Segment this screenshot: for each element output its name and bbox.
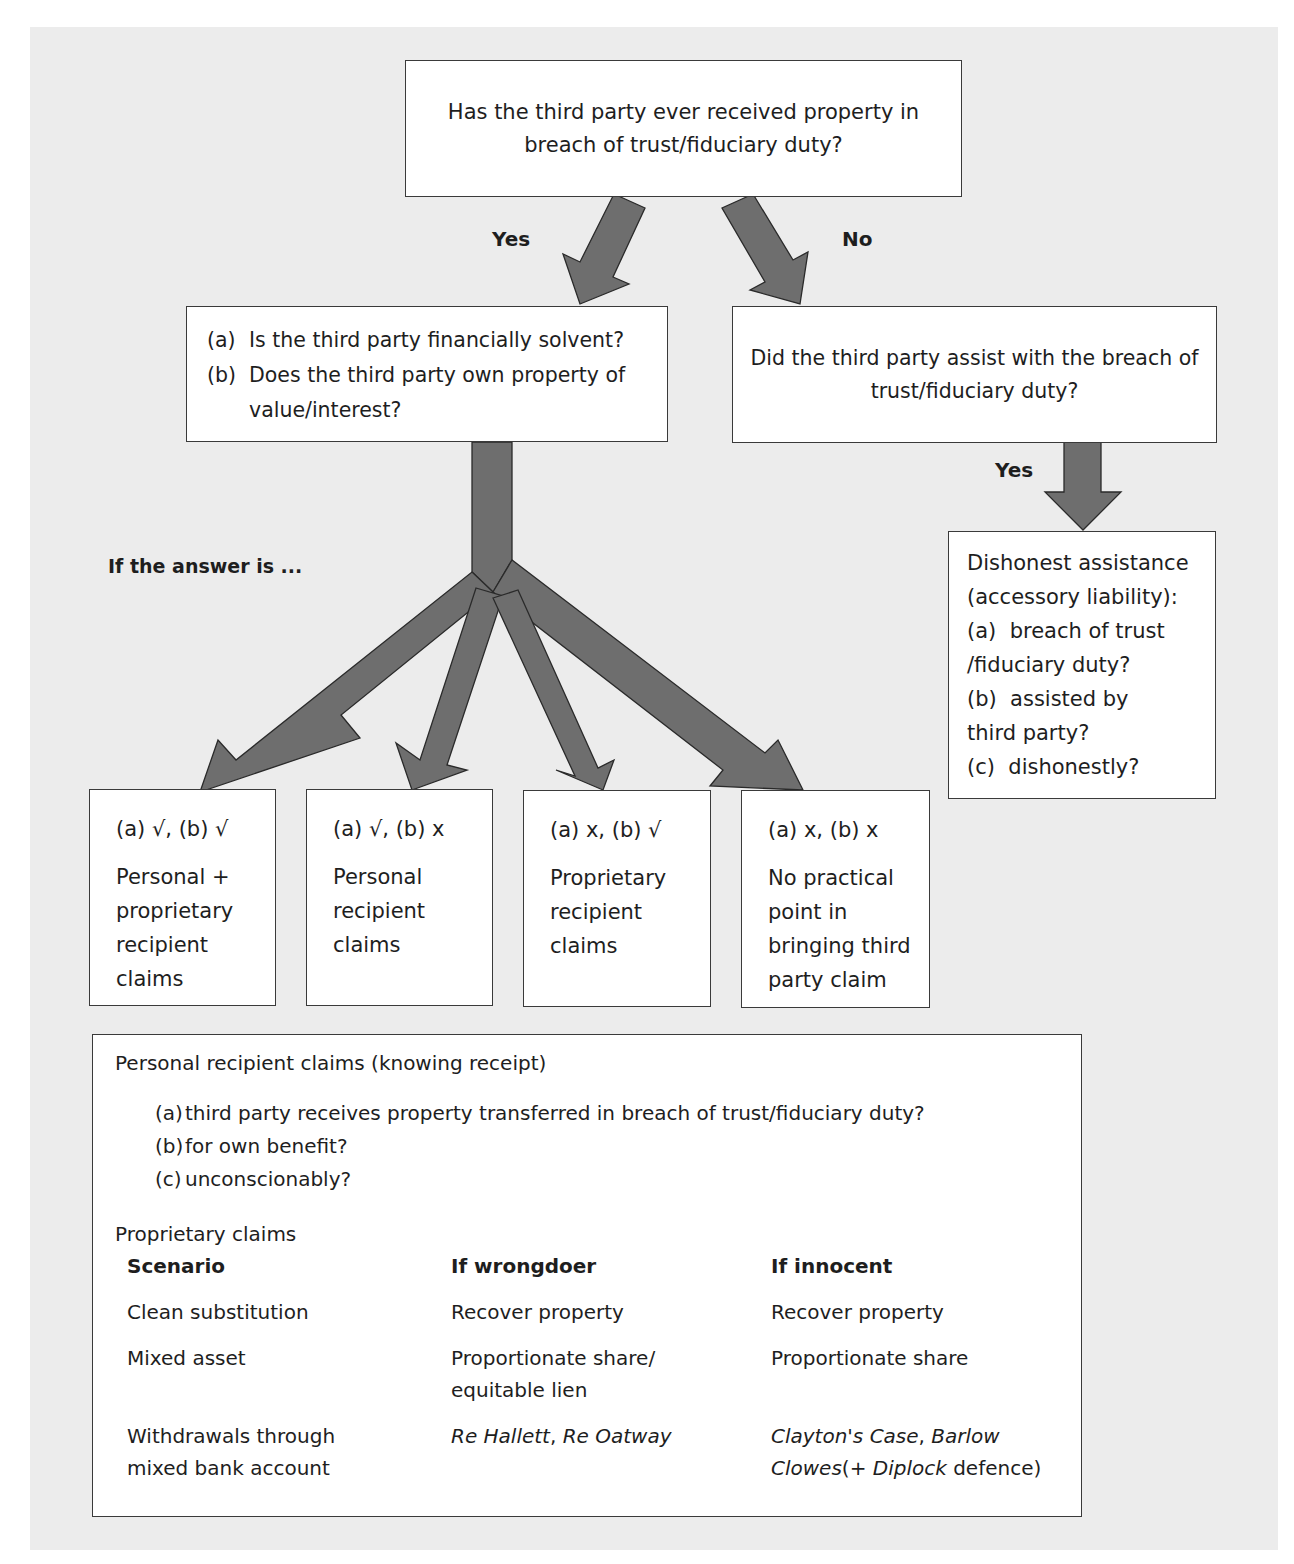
proprietary-claims-title: Proprietary claims xyxy=(115,1218,1057,1250)
yes-label: Yes xyxy=(492,227,530,251)
proprietary-claims-table: Scenario If wrongdoer If innocent Clean … xyxy=(115,1250,1057,1484)
personal-item-c: (c) unconscionably? xyxy=(155,1163,1057,1196)
no-label: No xyxy=(842,227,872,251)
table-cell: Mixed asset xyxy=(127,1342,451,1406)
assist-yes-label: Yes xyxy=(995,458,1033,482)
table-cell: Proportionate share/ equitable lien xyxy=(451,1342,771,1406)
dishonest-title-2: (accessory liability): xyxy=(967,580,1215,614)
solvency-question-box: (a) Is the third party financially solve… xyxy=(186,306,668,442)
case-name: Diplock xyxy=(873,1456,947,1480)
table-header: Scenario xyxy=(127,1250,451,1282)
case-name: Clayton's Case xyxy=(771,1424,919,1448)
table-cell: Re Hallett, Re Oatway xyxy=(451,1420,771,1484)
table-cell: Recover property xyxy=(451,1296,771,1328)
table-cell: Recover property xyxy=(771,1296,1091,1328)
personal-item-a: (a) third party receives property transf… xyxy=(155,1097,1057,1130)
table-header: If wrongdoer xyxy=(451,1250,771,1282)
case-name: Re Hallett xyxy=(451,1424,550,1448)
case-name: Clowes xyxy=(771,1456,842,1480)
dishonest-item-c: (c) dishonestly? xyxy=(967,750,1215,784)
assist-yes-arrow-icon xyxy=(1045,442,1121,530)
top-question-text: Has the third party ever received proper… xyxy=(429,96,939,162)
outcome-condition: (a) x, (b) √ xyxy=(550,813,710,847)
solvency-item-a: (a) Is the third party financially solve… xyxy=(207,323,667,358)
no-arrow-icon xyxy=(722,194,808,304)
assist-question-text: Did the third party assist with the brea… xyxy=(747,342,1202,408)
assist-question-box: Did the third party assist with the brea… xyxy=(732,306,1217,443)
personal-claims-title: Personal recipient claims (knowing recei… xyxy=(115,1049,1057,1077)
yes-arrow-icon xyxy=(563,194,645,304)
table-cell: Clayton's Case, Barlow Clowes(+ Diplock … xyxy=(771,1420,1091,1484)
table-cell: Proportionate share xyxy=(771,1342,1091,1406)
dishonest-assistance-box: Dishonest assistance (accessory liabilit… xyxy=(948,531,1216,799)
outcome-condition: (a) √, (b) √ xyxy=(116,812,275,846)
outcome-box-3: (a) x, (b) √ Proprietary recipient claim… xyxy=(523,790,711,1007)
dishonest-item-b: (b) assisted by xyxy=(967,682,1215,716)
personal-claims-criteria: (a) third party receives property transf… xyxy=(115,1097,1057,1196)
solvency-item-b: (b) Does the third party own property of… xyxy=(207,358,667,428)
table-cell: Withdrawals through mixed bank account xyxy=(127,1420,451,1484)
case-name: Re Oatway xyxy=(563,1424,672,1448)
case-name: Barlow xyxy=(931,1424,999,1448)
outcome-condition: (a) x, (b) x xyxy=(768,813,929,847)
table-header: If innocent xyxy=(771,1250,1091,1282)
dishonest-item-a: (a) breach of trust xyxy=(967,614,1215,648)
personal-item-b: (b) for own benefit? xyxy=(155,1130,1057,1163)
outcome-condition: (a) √, (b) x xyxy=(333,812,492,846)
outcome-box-1: (a) √, (b) √ Personal + proprietary reci… xyxy=(89,789,276,1006)
dishonest-title-1: Dishonest assistance xyxy=(967,546,1215,580)
summary-box: Personal recipient claims (knowing recei… xyxy=(92,1034,1082,1517)
outcome-box-2: (a) √, (b) x Personal recipient claims xyxy=(306,789,493,1006)
top-question-box: Has the third party ever received proper… xyxy=(405,60,962,197)
if-answer-label: If the answer is ... xyxy=(108,555,302,577)
table-cell: Clean substitution xyxy=(127,1296,451,1328)
outcome-box-4: (a) x, (b) x No practical point in bring… xyxy=(741,790,930,1008)
